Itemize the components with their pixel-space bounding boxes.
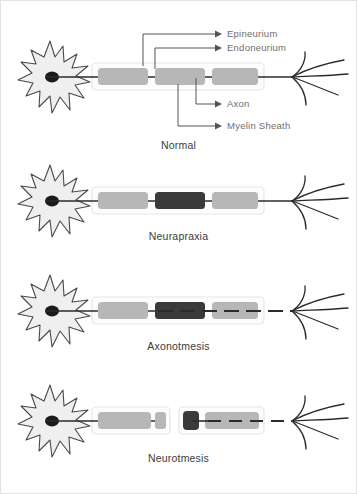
panel-normal-graphic (0, 0, 357, 155)
nerve-terminal-branches (292, 52, 348, 105)
label-myelin-sheath: Myelin Sheath (227, 120, 290, 131)
caption-axonotmesis: Axonotmesis (0, 340, 357, 352)
label-epineurium: Epineurium (227, 28, 278, 39)
caption-neurapraxia: Neurapraxia (0, 230, 357, 242)
myelin-segment (212, 192, 258, 209)
panel-neurotmesis-graphic (0, 378, 357, 490)
caption-neurotmesis: Neurotmesis (0, 452, 357, 464)
arrowhead-epineurium (215, 31, 222, 38)
label-endoneurium: Endoneurium (227, 42, 286, 53)
myelin-segment (98, 412, 151, 429)
arrowhead-endoneurium (215, 45, 222, 52)
caption-normal: Normal (0, 139, 357, 151)
panel-axonotmesis-graphic (0, 268, 357, 378)
label-axon: Axon (227, 98, 250, 109)
myelin-segment-stump (155, 412, 166, 429)
leader-epineurium (143, 34, 215, 66)
panel-neurapraxia-graphic (0, 158, 357, 268)
panel-neurapraxia: Neurapraxia (0, 158, 357, 268)
myelin-segment (98, 302, 148, 319)
nerve-terminal-branches (292, 286, 348, 339)
nerve-injury-diagram: Epineurium Endoneurium Axon Myelin Sheat… (0, 0, 357, 494)
panel-axonotmesis: Axonotmesis (0, 268, 357, 378)
panel-neurotmesis: Neurotmesis (0, 378, 357, 490)
myelin-segment-damaged (155, 192, 205, 209)
myelin-segment (98, 192, 148, 209)
arrowhead-myelin (215, 123, 222, 130)
myelin-segment (98, 68, 148, 85)
panel-normal: Epineurium Endoneurium Axon Myelin Sheat… (0, 0, 357, 155)
nerve-terminal-branches (292, 176, 348, 229)
myelin-segment (212, 68, 258, 85)
nerve-terminal-branches (292, 396, 348, 449)
myelin-segment (155, 68, 205, 85)
arrowhead-axon (215, 101, 222, 108)
